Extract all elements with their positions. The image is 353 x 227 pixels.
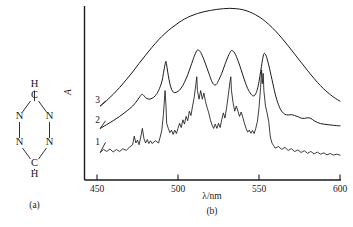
x-tick-label-500: 500 (171, 184, 186, 194)
hydrogen-top: H (31, 78, 39, 89)
x-axis-title: λ/nm (202, 191, 222, 201)
nitrogen-upper-left: N (16, 110, 24, 121)
x-tick-label-450: 450 (90, 184, 105, 194)
curve-label-2: 2 (95, 115, 100, 125)
x-axis-ticks (97, 175, 340, 181)
curve-label-3: 3 (95, 95, 100, 105)
curve-label-1: 1 (95, 137, 100, 147)
x-tick-label-600: 600 (333, 184, 348, 194)
molecular-structure-tetrazine: HCNNNNCH (16, 78, 54, 179)
panel-label-a: (a) (29, 200, 40, 211)
hydrogen-bottom: H (31, 168, 39, 179)
y-axis-title: A (63, 89, 73, 96)
nitrogen-upper-right: N (46, 110, 54, 121)
curve-leader-1 (100, 142, 105, 152)
molecule-bond (39, 148, 47, 159)
figure-root: HCNNNNCH (a) 450500550600 λ/nm A 123 (b) (0, 0, 353, 227)
spectra-plot: 450500550600 λ/nm A 123 (63, 6, 347, 201)
molecule-bond (23, 101, 31, 112)
molecule-bond (23, 148, 31, 159)
panel-label-b: (b) (206, 206, 217, 217)
curve-leader-3 (100, 101, 105, 106)
molecule-atoms: HCNNNNCH (16, 78, 54, 179)
curve-3 (100, 8, 340, 106)
figure-canvas: HCNNNNCH (a) 450500550600 λ/nm A 123 (b) (0, 0, 353, 227)
nitrogen-lower-right: N (46, 136, 54, 147)
carbon-top: C (31, 89, 38, 100)
curve-1 (100, 70, 340, 155)
carbon-bottom: C (31, 157, 38, 168)
spectra-curves (100, 8, 340, 155)
x-tick-label-550: 550 (252, 184, 267, 194)
curve-2 (100, 50, 340, 129)
curve-labels: 123 (95, 95, 105, 152)
nitrogen-lower-left: N (16, 136, 24, 147)
